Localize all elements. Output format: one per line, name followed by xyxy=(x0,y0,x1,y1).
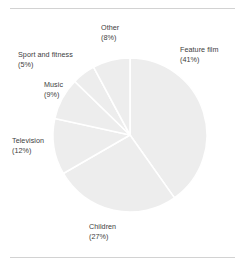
slice-label-music-name: Music xyxy=(44,80,63,90)
pie-chart-figure: Feature film (41%) Children (27%) Televi… xyxy=(0,0,245,270)
slice-label-sport-and-fitness: Sport and fitness (5%) xyxy=(18,50,73,69)
slice-label-children-name: Children xyxy=(89,222,116,232)
slice-label-sport-and-fitness-percent: (5%) xyxy=(18,60,73,70)
slice-label-children-percent: (27%) xyxy=(89,232,116,242)
slice-label-other: Other (8%) xyxy=(101,23,119,42)
bottom-divider-rule xyxy=(10,257,235,258)
slice-label-feature-film: Feature film (41%) xyxy=(180,45,219,64)
slice-label-sport-and-fitness-name: Sport and fitness xyxy=(18,50,73,60)
slice-label-other-name: Other xyxy=(101,23,119,33)
slice-label-television: Television (12%) xyxy=(12,136,44,155)
pie-chart-area xyxy=(0,0,245,270)
slice-label-feature-film-percent: (41%) xyxy=(180,55,219,65)
slice-label-music-percent: (9%) xyxy=(44,90,63,100)
slice-label-children: Children (27%) xyxy=(89,222,116,241)
slice-label-other-percent: (8%) xyxy=(101,33,119,43)
slice-label-music: Music (9%) xyxy=(44,80,63,99)
slice-label-feature-film-name: Feature film xyxy=(180,45,219,55)
slice-label-television-percent: (12%) xyxy=(12,146,44,156)
pie-chart-svg xyxy=(0,0,245,270)
slice-label-television-name: Television xyxy=(12,136,44,146)
